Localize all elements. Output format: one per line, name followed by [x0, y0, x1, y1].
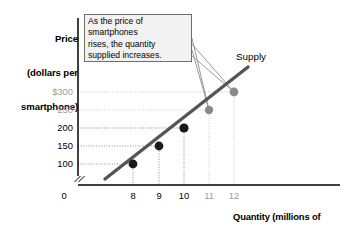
annotation-callout-text: As the price of smartphones rises, the q…	[88, 16, 192, 62]
gridlines-vertical	[133, 92, 234, 185]
y-tick-label-300: $300	[31, 86, 73, 97]
x-axis-title-line: Quantity (millions of	[233, 211, 349, 222]
x-axis-title: Quantity (millions of smartphones per we…	[233, 189, 349, 231]
supply-curve-label: Supply	[236, 51, 266, 63]
data-point	[155, 142, 164, 151]
callout-line: rises, the quantity	[88, 39, 192, 50]
callout-line: smartphones	[88, 27, 192, 38]
x-tick-label-10: 10	[174, 190, 194, 201]
y-axis-title: Price (dollars per smartphone)	[0, 10, 78, 134]
y-axis-title-line: (dollars per	[0, 67, 78, 78]
y-tick-label-250: 250	[31, 104, 73, 115]
origin-label: 0	[57, 190, 71, 201]
callout-leader-lines	[192, 38, 234, 110]
x-tick-label-8: 8	[123, 190, 143, 201]
y-tick-label-200: 200	[31, 122, 73, 133]
x-tick-label-9: 9	[149, 190, 169, 201]
data-point	[129, 160, 138, 169]
y-tick-label-100: 100	[31, 158, 73, 169]
data-point	[230, 88, 239, 97]
y-tick-label-150: 150	[31, 140, 73, 151]
callout-line: As the price of	[88, 16, 192, 27]
x-tick-label-11: 11	[199, 190, 219, 201]
data-points	[129, 88, 239, 169]
data-point	[205, 106, 213, 114]
supply-curve-figure: Price (dollars per smartphone) $300 250 …	[0, 0, 349, 231]
supply-curve	[105, 67, 248, 179]
callout-line: supplied increases.	[88, 50, 192, 61]
y-axis-title-line: Price	[0, 33, 78, 44]
data-point	[179, 123, 188, 132]
gridlines-horizontal	[78, 92, 234, 164]
